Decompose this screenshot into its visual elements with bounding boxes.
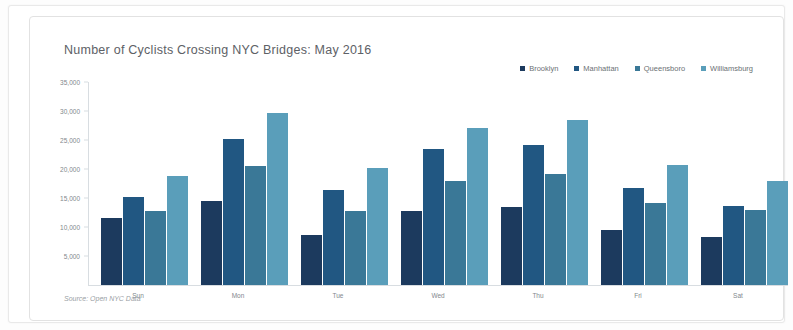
bar-brooklyn-fri[interactable]	[601, 230, 622, 285]
x-axis-tick-label: Mon	[188, 292, 288, 299]
bar-brooklyn-mon[interactable]	[201, 201, 222, 285]
x-axis-tick-label: Sat	[688, 292, 788, 299]
y-axis-tick-label: 15,000	[40, 195, 80, 202]
plot-area: 5,00010,00015,00020,00025,00030,00035,00…	[88, 82, 788, 285]
bar-queensboro-mon[interactable]	[245, 166, 266, 285]
legend-swatch-icon	[574, 66, 579, 71]
x-axis-tick-label: Thu	[488, 292, 588, 299]
y-axis-tick-label: 30,000	[40, 108, 80, 115]
bar-williamsburg-mon[interactable]	[267, 113, 288, 285]
bar-williamsburg-tue[interactable]	[367, 168, 388, 285]
source-note: Source: Open NYC Data	[64, 295, 141, 302]
bar-williamsburg-fri[interactable]	[667, 165, 688, 285]
chart-legend: BrooklynManhattanQueensboroWilliamsburg	[520, 64, 753, 73]
bar-brooklyn-wed[interactable]	[401, 211, 422, 285]
bar-manhattan-wed[interactable]	[423, 149, 444, 285]
legend-label: Queensboro	[644, 64, 685, 73]
bars	[601, 82, 688, 285]
bar-group-sat: Sat	[688, 82, 788, 285]
bar-group-thu: Thu	[488, 82, 588, 285]
bar-queensboro-sat[interactable]	[745, 210, 766, 285]
bar-group-sun: Sun	[88, 82, 188, 285]
legend-swatch-icon	[701, 66, 706, 71]
bar-manhattan-sun[interactable]	[123, 197, 144, 285]
legend-label: Williamsburg	[710, 64, 753, 73]
x-axis-tick-label: Tue	[288, 292, 388, 299]
legend-item-manhattan[interactable]: Manhattan	[574, 64, 618, 73]
x-axis-line	[88, 285, 788, 286]
bar-groups: SunMonTueWedThuFriSat	[88, 82, 788, 285]
bar-williamsburg-wed[interactable]	[467, 128, 488, 285]
legend-item-queensboro[interactable]: Queensboro	[635, 64, 685, 73]
x-axis-tick-label: Fri	[588, 292, 688, 299]
bar-williamsburg-thu[interactable]	[567, 120, 588, 285]
bar-brooklyn-thu[interactable]	[501, 207, 522, 285]
y-axis-tick-label: 25,000	[40, 137, 80, 144]
bar-group-mon: Mon	[188, 82, 288, 285]
scan-edge: Number of Cyclists Crossing NYC Bridges:…	[8, 5, 785, 323]
bars	[301, 82, 388, 285]
bar-group-tue: Tue	[288, 82, 388, 285]
chart-card: Number of Cyclists Crossing NYC Bridges:…	[29, 16, 784, 321]
bars	[701, 82, 788, 285]
bar-queensboro-wed[interactable]	[445, 181, 466, 285]
legend-label: Brooklyn	[529, 64, 558, 73]
bars	[501, 82, 588, 285]
y-axis-tick-label: 35,000	[40, 79, 80, 86]
x-axis-tick-label: Wed	[388, 292, 488, 299]
y-axis-tick-label: 5,000	[40, 253, 80, 260]
bar-manhattan-mon[interactable]	[223, 139, 244, 285]
bar-group-wed: Wed	[388, 82, 488, 285]
bar-queensboro-tue[interactable]	[345, 211, 366, 285]
bar-brooklyn-sat[interactable]	[701, 237, 722, 285]
page-title: Number of Cyclists Crossing NYC Bridges:…	[64, 43, 372, 57]
legend-item-brooklyn[interactable]: Brooklyn	[520, 64, 558, 73]
legend-label: Manhattan	[583, 64, 618, 73]
bar-manhattan-thu[interactable]	[523, 145, 544, 285]
bar-brooklyn-tue[interactable]	[301, 235, 322, 285]
bars	[201, 82, 288, 285]
bar-queensboro-sun[interactable]	[145, 211, 166, 285]
bar-manhattan-sat[interactable]	[723, 206, 744, 285]
legend-swatch-icon	[635, 66, 640, 71]
bar-williamsburg-sat[interactable]	[767, 181, 788, 285]
bar-manhattan-tue[interactable]	[323, 190, 344, 285]
bars	[401, 82, 488, 285]
legend-item-williamsburg[interactable]: Williamsburg	[701, 64, 753, 73]
scanned-page: Number of Cyclists Crossing NYC Bridges:…	[0, 0, 793, 330]
bar-group-fri: Fri	[588, 82, 688, 285]
bars	[101, 82, 188, 285]
bar-brooklyn-sun[interactable]	[101, 218, 122, 285]
legend-swatch-icon	[520, 66, 525, 71]
bar-queensboro-fri[interactable]	[645, 203, 666, 285]
y-axis-tick-label: 20,000	[40, 166, 80, 173]
bar-williamsburg-sun[interactable]	[167, 176, 188, 285]
bar-manhattan-fri[interactable]	[623, 188, 644, 285]
y-axis-tick-label: 10,000	[40, 224, 80, 231]
bar-queensboro-thu[interactable]	[545, 174, 566, 285]
